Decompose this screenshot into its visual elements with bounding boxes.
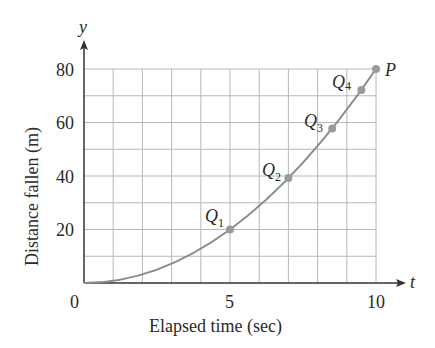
axes [80, 40, 406, 287]
point-p [372, 65, 380, 73]
origin-label: 0 [70, 292, 79, 312]
q2-label: Q2 [262, 160, 281, 184]
chart: 0 5 10 20 40 60 80 t y Elapsed time (sec… [0, 0, 435, 348]
q4-label: Q4 [332, 72, 351, 93]
x-axis-title: Elapsed time (sec) [149, 316, 282, 337]
t-axis-symbol: t [410, 272, 416, 292]
y-tick-80: 80 [56, 60, 74, 80]
y-tick-40: 40 [56, 167, 74, 187]
p-label: P [384, 60, 396, 80]
x-tick-5: 5 [225, 292, 234, 312]
point-q1 [226, 226, 234, 234]
q1-label: Q1 [205, 206, 224, 230]
y-tick-60: 60 [56, 113, 74, 133]
grid [84, 69, 376, 283]
y-axis-title: Distance fallen (m) [22, 127, 43, 266]
point-labels: Q1 Q2 Q3 Q4 P [205, 60, 396, 230]
point-q4 [357, 86, 365, 94]
point-q2 [284, 174, 292, 182]
y-tick-20: 20 [56, 220, 74, 240]
point-q3 [328, 124, 336, 132]
y-axis-symbol: y [77, 17, 87, 37]
q3-label: Q3 [304, 111, 323, 135]
x-tick-10: 10 [367, 292, 385, 312]
